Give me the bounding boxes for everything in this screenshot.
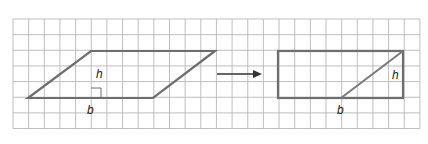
rectangle-height-label: h bbox=[392, 68, 399, 82]
right-angle-marker bbox=[91, 88, 101, 98]
parallelogram-height-label: h bbox=[96, 67, 103, 81]
rectangle-shape bbox=[278, 51, 403, 98]
arrow-head-icon bbox=[253, 70, 262, 78]
diagram-svg: h b h b bbox=[0, 0, 428, 144]
diagram-canvas: h b h b bbox=[0, 0, 428, 144]
grid-lines bbox=[13, 19, 420, 129]
parallelogram-shape bbox=[28, 51, 215, 98]
rectangle-base-label: b bbox=[337, 103, 344, 117]
parallelogram-base-label: b bbox=[87, 103, 94, 117]
